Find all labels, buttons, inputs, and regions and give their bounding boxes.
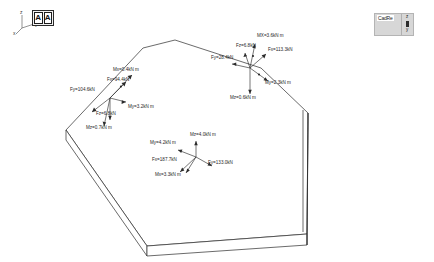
slab-top-face [66,40,308,246]
label-left-mx: Mx=0.4kN m [113,67,139,72]
cad-panel-brand-area: CadRe [375,14,402,35]
axis-z-label: z [20,10,23,15]
label-right-fx: Fx=113.3kN [268,47,293,52]
label-left-fz: Fz=6.8kN [96,111,116,116]
cad-axis-y-label: y [406,27,408,32]
label-center-fx: Fx=187.7kN [152,157,177,162]
label-center-mx: Mx=3.3kN m [155,172,181,177]
label-left-my: My=3.2kN m [128,104,154,109]
axis-x-label: x [13,30,16,36]
label-right-fy: Fy=28.4kN [211,55,233,60]
antialias-toggle-button[interactable]: A A [32,10,54,26]
label-right-mz: Mz=0.6kN m [230,95,256,100]
structural-load-diagram: Mx=0.4kN m Fx=94.4kN Fy=104.6kN My=3.2kN… [0,0,434,262]
cad-viewport: Mx=0.4kN m Fx=94.4kN Fy=104.6kN My=3.2kN… [0,0,434,262]
cad-brand-label: CadRe [377,15,394,21]
cad-axis-z-label: z [406,14,408,19]
label-right-my: My=2.3kN m [265,80,291,85]
label-left-mz: Mz=0.7kN m [86,125,112,130]
label-left-fx: Fx=94.4kN [107,77,129,82]
label-left-fy: Fy=104.6kN [70,87,95,92]
label-right-fz: Fz=6.8kN [236,43,256,48]
cad-info-panel[interactable]: CadRe z y [374,13,414,36]
cad-panel-axis-indicator: z y [402,14,413,35]
label-center-fy: Fy=133.0kN [208,160,233,165]
label-right-mx: MX=3.6kN m [257,33,284,38]
label-center-my: My=4.2kN m [150,140,176,145]
label-center-mz: Mz=4.0kN m [190,132,216,137]
aa-left-glyph: A [34,12,43,24]
aa-right-glyph: A [44,12,53,24]
